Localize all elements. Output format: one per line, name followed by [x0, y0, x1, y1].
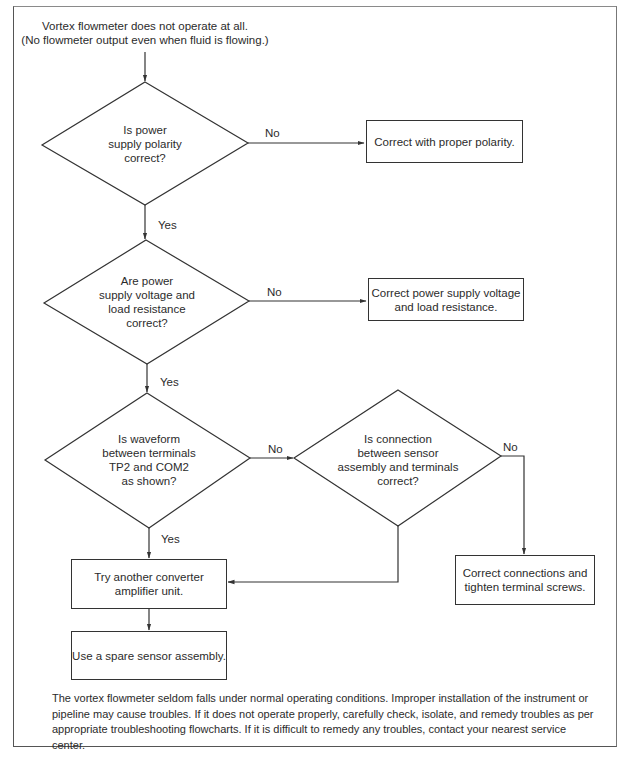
decision-2-text: Are power supply voltage and load resist…: [87, 274, 207, 330]
decision-2-yes-label: Yes: [160, 376, 179, 389]
decision-2-no-label: No: [267, 286, 282, 299]
decision-4-no-label: No: [503, 441, 518, 454]
start-line-1: Vortex flowmeter does not operate at all…: [20, 19, 270, 33]
arrow-d4-yes: [228, 526, 398, 582]
action-1-line: Correct with proper polarity.: [374, 135, 514, 149]
action-3-line: Try another converter: [94, 570, 204, 584]
decision-3-line: between terminals: [89, 446, 209, 460]
decision-3-line: TP2 and COM2: [89, 460, 209, 474]
action-correct-polarity: Correct with proper polarity.: [366, 120, 523, 163]
action-use-spare-sensor: Use a spare sensor assembly.: [71, 631, 227, 680]
start-statement: Vortex flowmeter does not operate at all…: [20, 19, 270, 47]
decision-3-line: Is waveform: [89, 432, 209, 446]
action-5-line: Correct connections and: [463, 566, 588, 580]
decision-4-line: Is connection: [333, 432, 463, 446]
decision-4-text: Is connection between sensor assembly an…: [333, 432, 463, 488]
decision-2-line: load resistance: [87, 302, 207, 316]
action-4-line: Use a spare sensor assembly.: [72, 649, 226, 663]
action-3-line: amplifier unit.: [94, 584, 204, 598]
decision-2-line: correct?: [87, 316, 207, 330]
decision-1-yes-label: Yes: [158, 219, 177, 232]
decision-4-line: between sensor: [333, 446, 463, 460]
decision-2-line: supply voltage and: [87, 288, 207, 302]
decision-1-line: Is power: [85, 123, 205, 137]
action-correct-voltage-load: Correct power supply voltage and load re…: [368, 278, 524, 321]
footer-note: The vortex flowmeter seldom falls under …: [52, 691, 597, 753]
decision-3-yes-label: Yes: [161, 533, 180, 546]
action-5-line: tighten terminal screws.: [463, 580, 588, 594]
decision-1-line: correct?: [85, 151, 205, 165]
action-try-another-converter: Try another converter amplifier unit.: [71, 559, 227, 609]
decision-4-line: assembly and terminals: [333, 460, 463, 474]
decision-3-text: Is waveform between terminals TP2 and CO…: [89, 432, 209, 488]
decision-3-line: as shown?: [89, 474, 209, 488]
action-correct-connections: Correct connections and tighten terminal…: [455, 555, 595, 605]
decision-2-line: Are power: [87, 274, 207, 288]
decision-3-no-label: No: [268, 443, 283, 456]
start-line-2: (No flowmeter output even when fluid is …: [20, 33, 270, 47]
decision-1-no-label: No: [265, 127, 280, 140]
decision-4-line: correct?: [333, 474, 463, 488]
action-2-line: and load resistance.: [372, 300, 521, 314]
decision-1-line: supply polarity: [85, 137, 205, 151]
action-2-line: Correct power supply voltage: [372, 286, 521, 300]
arrow-d4-no: [501, 456, 524, 554]
decision-1-text: Is power supply polarity correct?: [85, 123, 205, 165]
